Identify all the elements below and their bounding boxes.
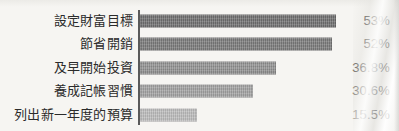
bar-rows: 設定財富目標53%節省開銷52%及早開始投資36.8%養成記帳習慣30.6%列出… [0,0,399,131]
bar-track [140,61,276,74]
category-label: 設定財富目標 [0,14,133,28]
bar-value-label: 15.5% [330,108,390,122]
bar-track [140,85,253,98]
bar-chart: 設定財富目標53%節省開銷52%及早開始投資36.8%養成記帳習慣30.6%列出… [0,0,399,131]
bar-track [140,15,336,28]
bar-row: 設定財富目標53% [0,9,399,33]
bar-value-label: 52% [330,37,390,51]
bar-value-label: 53% [330,14,390,28]
bar-track [140,108,197,121]
bar [140,61,276,74]
bar-row: 及早開始投資36.8% [0,56,399,80]
bar [140,38,332,51]
bar-value-label: 36.8% [330,61,390,75]
bar-row: 養成記帳習慣30.6% [0,79,399,103]
bar-value-label: 30.6% [330,84,390,98]
bar-track [140,38,332,51]
value-axis-baseline [138,10,140,125]
category-label: 列出新一年度的預算 [0,108,133,122]
category-label: 及早開始投資 [0,61,133,75]
bar [140,85,253,98]
bar-row: 節省開銷52% [0,32,399,56]
category-label: 節省開銷 [0,37,133,51]
bar-row: 列出新一年度的預算15.5% [0,103,399,127]
category-label: 養成記帳習慣 [0,84,133,98]
bar [140,108,197,121]
bar [140,15,336,28]
